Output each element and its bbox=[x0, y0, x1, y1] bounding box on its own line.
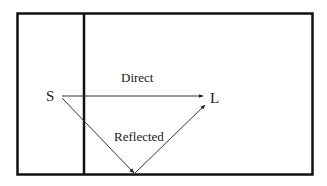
room-boundary bbox=[18, 14, 313, 175]
listener-label: L bbox=[210, 90, 219, 106]
direct-label: Direct bbox=[121, 70, 154, 85]
source-label: S bbox=[46, 88, 54, 104]
reflected-label: Reflected bbox=[114, 129, 164, 144]
diagram-canvas: S L Direct Reflected bbox=[0, 0, 327, 186]
